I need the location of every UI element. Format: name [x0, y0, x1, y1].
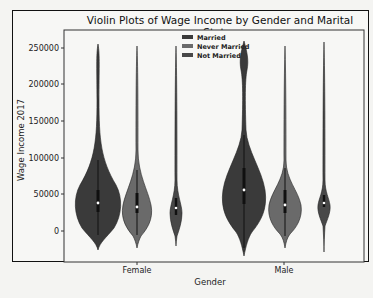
legend-swatch-not-married: [182, 53, 193, 57]
legend-swatch-never-married: [182, 44, 193, 48]
y-tick-label: 150000: [28, 117, 59, 126]
y-tick-label: 100000: [28, 154, 59, 163]
y-axis-label: Wage Income 2017: [16, 99, 26, 181]
legend-label: Never Married: [197, 43, 250, 51]
x-tick-label: Male: [275, 266, 294, 275]
x-axis: Female Male Gender: [123, 262, 294, 287]
legend-swatch-married: [182, 35, 193, 39]
legend-label: Not Married: [197, 52, 241, 60]
x-axis-label: Gender: [194, 277, 226, 287]
y-tick-label: 200000: [28, 80, 59, 89]
y-axis: 250000 200000 150000 100000 50000 0: [28, 44, 64, 236]
x-tick-label: Female: [123, 266, 152, 275]
y-tick-label: 50000: [34, 190, 59, 199]
y-tick-label: 0: [54, 227, 59, 236]
legend-label: Married: [197, 34, 226, 42]
y-tick-label: 250000: [28, 44, 59, 53]
violin-chart: 250000 200000 150000 100000 50000 0 Wage…: [0, 0, 373, 298]
